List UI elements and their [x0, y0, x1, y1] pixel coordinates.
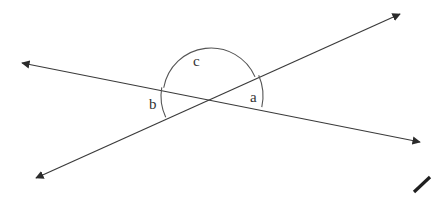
angle-label-a: a — [250, 90, 257, 105]
geometry-canvas — [0, 0, 441, 198]
line-lowerleft-upperright — [36, 14, 400, 178]
line-upperleft-lowerright — [22, 63, 420, 142]
angle-label-b: b — [149, 97, 157, 112]
corner-tick-mark — [414, 177, 430, 192]
angle-label-c: c — [193, 54, 200, 69]
angle-arc-c — [164, 48, 255, 88]
geometry-diagram: a b c — [0, 0, 441, 198]
angle-arc-a — [259, 75, 263, 107]
